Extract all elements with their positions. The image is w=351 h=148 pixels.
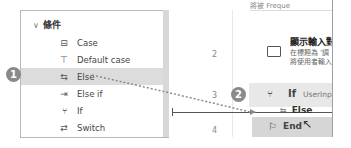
- drag-path: [0, 0, 351, 148]
- callout-badge-1: 1: [6, 67, 21, 82]
- callout-badge-2: 2: [231, 87, 246, 102]
